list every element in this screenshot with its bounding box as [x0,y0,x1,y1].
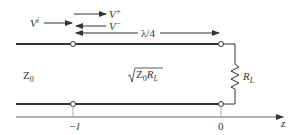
terminal-bottom-zero [219,102,224,107]
tick-label-minus-l: −l [69,120,79,132]
quarter-wave-length-label: λ/4 [141,27,155,39]
transformer-impedance-label: Z0RL [128,68,163,83]
load-resistance-label: RL [242,70,255,85]
svg-text:Z0RL: Z0RL [136,68,158,83]
axis-label-z: z [280,117,286,129]
terminal-top-zero [219,42,224,47]
quarter-wave-diagram: Vi V+ V− λ/4 Z0 Z0RL RL −l 0 z [0,0,301,135]
terminal-top-minus-l [71,42,76,47]
backward-wave-label: V− [109,19,121,32]
load-resistor [223,44,239,104]
line-impedance-label: Z0 [23,69,34,84]
tick-label-zero: 0 [218,120,224,132]
incident-wave-label: Vi [30,16,39,29]
terminal-bottom-minus-l [71,102,76,107]
